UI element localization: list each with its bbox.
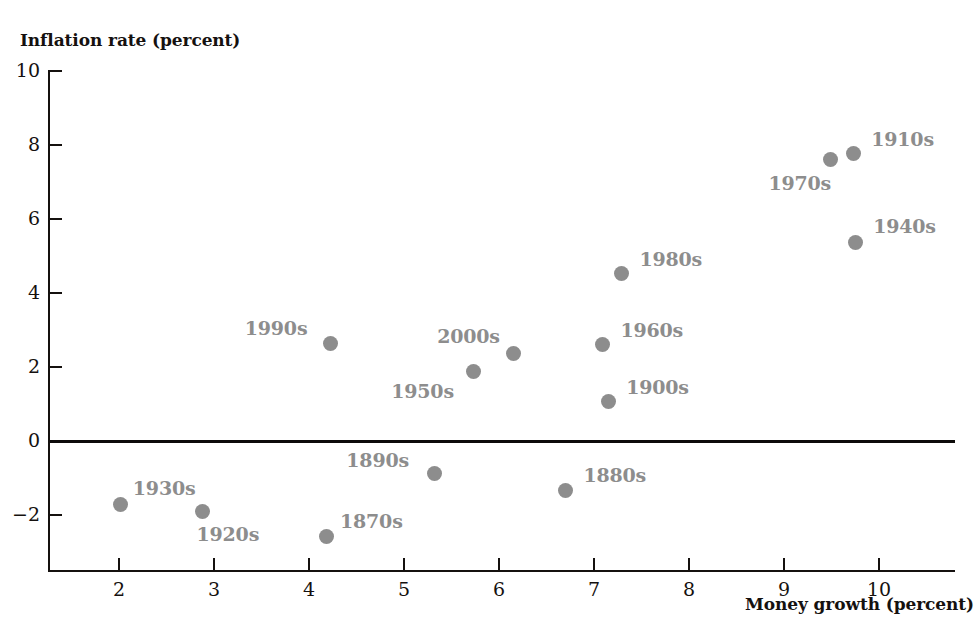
x-tick-5 [403,558,405,570]
zero-reference-line [50,440,955,443]
data-point-label: 1970s [769,172,832,194]
x-tick-label-2: 2 [99,580,139,599]
x-tick-2 [118,558,120,570]
data-point-label: 1990s [245,317,308,339]
y-tick-label-6: 6 [0,209,40,228]
x-tick-7 [593,558,595,570]
data-point-label: 1940s [873,215,936,237]
data-point-label: 1950s [391,380,454,402]
x-tick-label-3: 3 [194,580,234,599]
data-point[interactable] [466,364,481,379]
x-tick-8 [688,558,690,570]
data-point-label: 1890s [346,449,409,471]
data-point[interactable] [823,152,838,167]
y-tick-neg2 [50,514,62,516]
x-tick-4 [308,558,310,570]
x-tick-label-10: 10 [859,580,899,599]
data-point-label: 1870s [340,510,403,532]
data-point[interactable] [195,504,210,519]
y-tick-2 [50,366,62,368]
x-axis-line [48,570,955,572]
x-tick-label-8: 8 [669,580,709,599]
data-point[interactable] [558,483,573,498]
x-tick-label-7: 7 [574,580,614,599]
x-tick-label-4: 4 [289,580,329,599]
y-tick-label-8: 8 [0,135,40,154]
data-point-label: 1960s [621,319,684,341]
y-tick-4 [50,292,62,294]
data-point-label: 1920s [197,523,260,545]
data-point-label: 1980s [640,248,703,270]
data-point[interactable] [848,235,863,250]
data-point[interactable] [595,337,610,352]
y-tick-label-neg2: −2 [0,505,40,524]
x-tick-6 [498,558,500,570]
data-point[interactable] [846,146,861,161]
data-point[interactable] [323,336,338,351]
data-point[interactable] [614,266,629,281]
data-point[interactable] [427,466,442,481]
data-point[interactable] [601,394,616,409]
data-point[interactable] [319,529,334,544]
y-tick-label-0: 0 [0,431,40,450]
y-tick-label-10: 10 [0,61,40,80]
data-point-label: 1930s [133,477,196,499]
y-tick-8 [50,144,62,146]
y-tick-label-4: 4 [0,283,40,302]
x-tick-label-9: 9 [764,580,804,599]
data-point-label: 1910s [871,128,934,150]
data-point-label: 1900s [626,376,689,398]
x-tick-label-5: 5 [384,580,424,599]
x-tick-10 [878,558,880,570]
x-tick-9 [783,558,785,570]
y-axis-title: Inflation rate (percent) [20,30,240,50]
x-tick-label-6: 6 [479,580,519,599]
y-tick-label-2: 2 [0,357,40,376]
data-point-label: 2000s [437,325,500,347]
y-tick-6 [50,218,62,220]
y-tick-10 [50,70,62,72]
data-point-label: 1880s [583,464,646,486]
x-tick-3 [213,558,215,570]
data-point[interactable] [506,346,521,361]
data-point[interactable] [113,497,128,512]
